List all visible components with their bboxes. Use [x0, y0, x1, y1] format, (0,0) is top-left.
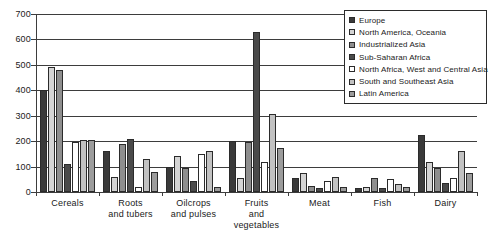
bar	[245, 142, 252, 192]
bar	[418, 135, 425, 192]
x-axis-tick-mark	[351, 192, 352, 196]
bar	[103, 151, 110, 192]
legend-swatch-icon	[349, 91, 355, 97]
bar	[174, 156, 181, 192]
legend-item: South and Southeast Asia	[349, 75, 483, 87]
bar	[143, 159, 150, 192]
bar-group	[288, 14, 351, 192]
bar	[292, 178, 299, 192]
legend-swatch-icon	[349, 66, 355, 72]
y-axis-tick-label: 600	[15, 34, 31, 44]
bar	[166, 167, 173, 192]
x-axis-tick-mark	[414, 192, 415, 196]
bar-chart: 0100200300400500600700 CerealsRootsand t…	[0, 0, 491, 237]
bar	[88, 140, 95, 192]
bar	[269, 114, 276, 192]
x-axis-category-label: Cereals	[36, 198, 99, 231]
legend: EuropeNorth America, OceaniaIndustrializ…	[344, 10, 487, 104]
legend-label: South and Southeast Asia	[359, 77, 453, 86]
bar	[135, 187, 142, 192]
legend-item: Latin America	[349, 88, 483, 100]
bar	[316, 188, 323, 192]
legend-swatch-icon	[349, 54, 355, 60]
bar	[379, 188, 386, 192]
bar	[80, 140, 87, 192]
legend-label: Industrialized Asia	[359, 40, 425, 49]
bar	[434, 168, 441, 192]
x-axis-tick-mark	[477, 192, 478, 196]
bar	[355, 188, 362, 192]
bar	[72, 142, 79, 192]
x-axis-tick-mark	[99, 192, 100, 196]
legend-item: Industrialized Asia	[349, 39, 483, 51]
legend-item: North Africa, West and Central Asia	[349, 63, 483, 75]
x-axis-tick-mark	[36, 192, 37, 196]
bar	[198, 154, 205, 192]
bar	[277, 148, 284, 193]
bar	[190, 181, 197, 192]
x-axis-category-label: Meat	[288, 198, 351, 231]
bar-group	[225, 14, 288, 192]
bar	[237, 178, 244, 192]
bar	[253, 32, 260, 192]
y-axis-tick-label: 100	[15, 162, 31, 172]
bar	[450, 178, 457, 192]
x-axis-category-label: Fish	[351, 198, 414, 231]
y-axis-tick-label: 300	[15, 111, 31, 121]
bar	[332, 177, 339, 192]
bar	[458, 151, 465, 192]
x-axis-category-label: Rootsand tubers	[99, 198, 162, 231]
legend-swatch-icon	[349, 17, 355, 23]
bar	[119, 144, 126, 192]
bar	[340, 187, 347, 192]
bar	[371, 178, 378, 192]
y-axis-tick-label: 700	[15, 9, 31, 19]
legend-item: Sub-Saharan Africa	[349, 51, 483, 63]
bar	[395, 184, 402, 192]
legend-label: Europe	[359, 16, 385, 25]
bar	[324, 181, 331, 192]
bar	[300, 173, 307, 192]
bar	[466, 173, 473, 192]
bar	[206, 151, 213, 192]
bar	[182, 168, 189, 192]
x-axis-category-label: Dairy	[414, 198, 477, 231]
bar	[56, 70, 63, 192]
x-axis-category-label: Oilcropsand pulses	[162, 198, 225, 231]
y-axis-tick-label: 200	[15, 136, 31, 146]
legend-label: North Africa, West and Central Asia	[359, 65, 488, 74]
x-axis-labels: CerealsRootsand tubersOilcropsand pulses…	[36, 198, 477, 231]
bar	[308, 186, 315, 192]
x-axis-tick-mark	[225, 192, 226, 196]
bar	[214, 187, 221, 192]
bar	[403, 187, 410, 192]
bar	[426, 162, 433, 193]
bar	[48, 67, 55, 192]
legend-swatch-icon	[349, 29, 355, 35]
legend-label: Latin America	[359, 89, 409, 98]
bar	[40, 90, 47, 192]
bar	[127, 139, 134, 192]
legend-item: Europe	[349, 14, 483, 26]
bar	[261, 162, 268, 193]
bar	[363, 187, 370, 192]
x-axis-line	[36, 192, 477, 193]
bar	[64, 164, 71, 192]
legend-swatch-icon	[349, 42, 355, 48]
y-axis-tick-label: 400	[15, 85, 31, 95]
legend-label: North America, Oceania	[359, 28, 446, 37]
y-axis-tick-label: 500	[15, 60, 31, 70]
bar	[442, 183, 449, 192]
legend-item: North America, Oceania	[349, 26, 483, 38]
x-axis-tick-mark	[288, 192, 289, 196]
bar-group	[99, 14, 162, 192]
bar	[111, 177, 118, 192]
bar-group	[36, 14, 99, 192]
x-axis-tick-mark	[162, 192, 163, 196]
legend-swatch-icon	[349, 79, 355, 85]
x-axis-category-label: Fruitsand vegetables	[225, 198, 288, 231]
bar-group	[162, 14, 225, 192]
bar	[387, 179, 394, 192]
bar	[229, 141, 236, 192]
bar	[151, 172, 158, 192]
